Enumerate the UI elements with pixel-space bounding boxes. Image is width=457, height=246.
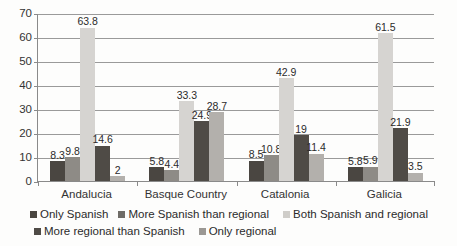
bar-group: 8.510.842.91911.4 — [237, 14, 336, 181]
bar-value-label: 2 — [115, 165, 121, 176]
legend-item[interactable]: Only Spanish — [30, 209, 108, 221]
bar[interactable] — [264, 155, 279, 181]
legend-item[interactable]: Only regional — [199, 226, 277, 238]
bar-column: 28.7 — [209, 14, 224, 181]
legend-swatch-icon — [34, 228, 41, 235]
bar-column: 8.3 — [50, 14, 65, 181]
bars: 8.510.842.91911.4 — [237, 14, 336, 181]
bar-column: 11.4 — [309, 14, 324, 181]
x-axis-category-label: Catalonia — [261, 188, 310, 200]
bar-value-label: 4.4 — [165, 159, 180, 170]
x-tick-mark — [137, 181, 138, 186]
bar-value-label: 8.3 — [50, 150, 65, 161]
bar[interactable] — [378, 33, 393, 181]
bar-column: 8.5 — [249, 14, 264, 181]
bars: 5.85.961.521.93.5 — [336, 14, 435, 181]
y-tick-label: 70 — [19, 8, 32, 20]
x-tick-mark — [336, 181, 337, 186]
bar-value-label: 3.5 — [408, 161, 423, 172]
x-tick-mark — [434, 181, 435, 186]
bar[interactable] — [279, 78, 294, 181]
legend-label: Only regional — [209, 226, 277, 238]
legend-label: More regional than Spanish — [44, 226, 185, 238]
bar-column: 63.8 — [80, 14, 95, 181]
bar-value-label: 9.8 — [65, 146, 80, 157]
bar-chart: 010203040506070 8.39.863.814.625.84.433.… — [0, 0, 457, 246]
bar[interactable] — [348, 167, 363, 181]
y-tick-label: 10 — [19, 152, 32, 164]
legend-swatch-icon — [283, 211, 290, 218]
bar-column: 10.8 — [264, 14, 279, 181]
bar-column: 19 — [294, 14, 309, 181]
bar[interactable] — [209, 112, 224, 181]
bar-value-label: 5.9 — [363, 155, 378, 166]
bar-value-label: 11.4 — [306, 142, 326, 153]
bar[interactable] — [194, 121, 209, 181]
chart-legend: Only SpanishMore Spanish than regionalBo… — [30, 206, 440, 240]
bar[interactable] — [80, 28, 95, 181]
legend-swatch-icon — [30, 211, 37, 218]
bar-group: 5.85.961.521.93.5 — [336, 14, 435, 181]
bar-value-label: 5.8 — [150, 156, 165, 167]
bar-column: 14.6 — [95, 14, 110, 181]
bar-value-label: 19 — [295, 124, 307, 135]
bars: 8.39.863.814.62 — [38, 14, 137, 181]
bar[interactable] — [95, 146, 110, 181]
bar[interactable] — [363, 167, 378, 181]
y-tick-label: 0 — [26, 176, 32, 188]
bar-group: 8.39.863.814.62 — [38, 14, 137, 181]
legend-item[interactable]: More regional than Spanish — [34, 226, 185, 238]
x-axis-category-label: Basque Country — [145, 188, 227, 200]
legend-label: More Spanish than regional — [128, 209, 269, 221]
bar[interactable] — [249, 161, 264, 181]
bar-column: 33.3 — [179, 14, 194, 181]
bar[interactable] — [408, 173, 423, 181]
bar-column: 24.9 — [194, 14, 209, 181]
bars: 5.84.433.324.928.7 — [137, 14, 236, 181]
y-tick-label: 20 — [19, 128, 32, 140]
bar-column: 5.8 — [149, 14, 164, 181]
plot-area: 010203040506070 8.39.863.814.625.84.433.… — [37, 14, 434, 182]
x-axis-category-label: Andalucia — [61, 188, 112, 200]
bar-column: 61.5 — [378, 14, 393, 181]
bar-column: 5.8 — [348, 14, 363, 181]
bar-value-label: 28.7 — [207, 101, 227, 112]
y-tick-label: 50 — [19, 56, 32, 68]
legend-row-2: More regional than SpanishOnly regional — [30, 223, 440, 240]
bar-column: 2 — [110, 14, 125, 181]
x-tick-mark — [38, 181, 39, 186]
legend-label: Only Spanish — [40, 209, 108, 221]
y-tick-label: 30 — [19, 104, 32, 116]
legend-item[interactable]: Both Spanish and regional — [283, 209, 428, 221]
bar-column: 3.5 — [408, 14, 423, 181]
x-axis-category-label: Galicia — [367, 188, 402, 200]
y-tick-label: 40 — [19, 80, 32, 92]
bar-value-label: 5.8 — [348, 156, 363, 167]
bar-column: 42.9 — [279, 14, 294, 181]
bar[interactable] — [65, 157, 80, 181]
legend-row-1: Only SpanishMore Spanish than regionalBo… — [30, 206, 440, 223]
legend-swatch-icon — [118, 211, 125, 218]
bar-column: 21.9 — [393, 14, 408, 181]
bar[interactable] — [309, 154, 324, 181]
bar[interactable] — [110, 176, 125, 181]
legend-swatch-icon — [199, 228, 206, 235]
bar-group: 5.84.433.324.928.7 — [137, 14, 236, 181]
bar-column: 9.8 — [65, 14, 80, 181]
bar[interactable] — [393, 128, 408, 181]
y-tick-label: 60 — [19, 32, 32, 44]
legend-label: Both Spanish and regional — [293, 209, 428, 221]
legend-item[interactable]: More Spanish than regional — [118, 209, 269, 221]
bar-column: 5.9 — [363, 14, 378, 181]
bar[interactable] — [149, 167, 164, 181]
bar[interactable] — [50, 161, 65, 181]
bar[interactable] — [164, 170, 179, 181]
x-tick-mark — [237, 181, 238, 186]
